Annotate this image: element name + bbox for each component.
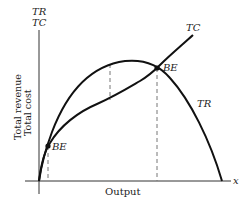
tr-curve xyxy=(39,61,222,181)
tc-curve-label: TC xyxy=(186,22,201,33)
be-point-lower xyxy=(45,143,50,148)
chart: TR TC Total revenue Total cost Output x … xyxy=(0,0,251,206)
tr-curve-label: TR xyxy=(197,98,212,109)
be-label-lower: BE xyxy=(51,141,67,152)
y-top-label-tr: TR xyxy=(32,6,47,17)
x-axis-label: Output xyxy=(105,186,141,197)
be-point-upper xyxy=(154,65,159,70)
x-axis-end-label: x xyxy=(233,175,239,186)
y-top-label-tc: TC xyxy=(32,17,47,28)
y-axis-label-cost: Total cost xyxy=(22,89,33,136)
be-label-upper: BE xyxy=(162,62,178,73)
